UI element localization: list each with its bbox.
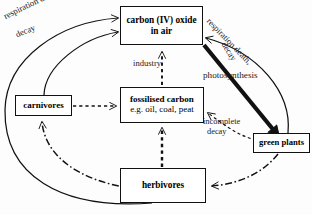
node-herbivores[interactable]: herbivores [120, 168, 206, 203]
edge-label-incomplete: incomplete [203, 117, 240, 126]
node-co2-line1: carbon (IV) oxide [126, 15, 196, 25]
node-herbivores-label: herbivores [142, 180, 184, 190]
edge-plants-to-herbivores [212, 154, 278, 186]
node-carbon-iv-oxide-in-air[interactable]: carbon (IV) oxide in air [120, 6, 203, 45]
edge-carnivores-to-co2 [44, 32, 118, 95]
node-carnivores[interactable]: carnivores [15, 95, 72, 116]
node-green-plants[interactable]: green plants [253, 133, 310, 153]
edge-label-incomplete-decay: decay [207, 127, 227, 136]
node-co2-line2: in air [151, 26, 172, 36]
carbon-cycle-diagram: carbon (IV) oxide in air fossilised carb… [0, 0, 312, 215]
edge-label-photosynthesis: photosynthesis [203, 70, 258, 80]
node-fossil-line2: e.g. oil, coal, peat [130, 105, 194, 115]
node-plants-label: green plants [259, 138, 304, 147]
edge-label-industry: industry [133, 58, 161, 68]
node-carnivores-label: carnivores [23, 101, 63, 111]
node-fossilised-carbon[interactable]: fossilised carbon e.g. oil, coal, peat [120, 87, 204, 123]
